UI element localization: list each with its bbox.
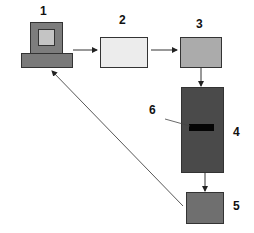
connector-arrows (0, 0, 254, 233)
callout-6-leader (165, 119, 190, 126)
arrow-5-to-1 (52, 71, 183, 206)
